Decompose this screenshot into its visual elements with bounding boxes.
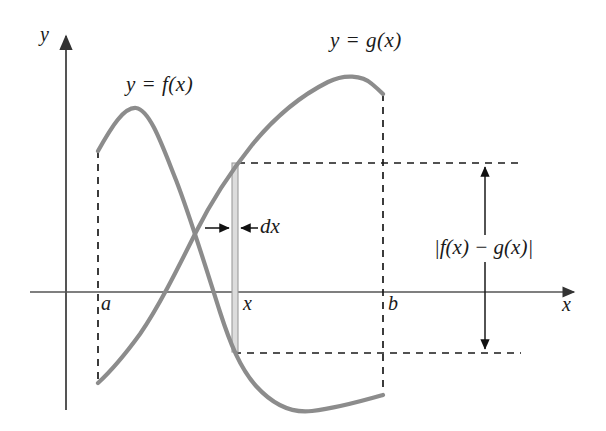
figure-canvas: [0, 0, 606, 431]
axes-group: [30, 36, 574, 410]
y-axis-label: y: [40, 24, 49, 44]
lower-bound-label: a: [101, 293, 111, 313]
x-axis-label: x: [562, 294, 571, 314]
strip-rect: [232, 163, 238, 352]
upper-bound-label: b: [388, 293, 398, 313]
sample-point-label: x: [243, 293, 252, 313]
curve-g-label: y = g(x): [330, 30, 402, 51]
height-measure-label: |f(x) − g(x)|: [430, 235, 537, 260]
differential-label: dx: [260, 216, 280, 237]
curve-f-label: y = f(x): [126, 74, 193, 95]
area-between-curves-figure: y x y = f(x) y = g(x) a b x dx |f(x) − g…: [0, 0, 606, 431]
curve-f: [98, 108, 383, 411]
differential-strip: [232, 163, 238, 352]
curve-g: [98, 77, 383, 383]
